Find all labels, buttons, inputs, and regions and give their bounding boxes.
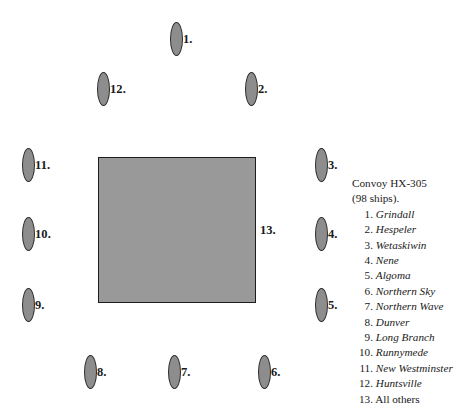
legend-item: 13. All others: [352, 392, 464, 407]
legend-item: 9. Long Branch: [352, 330, 464, 345]
escort-marker-10: 10.: [22, 217, 35, 251]
escort-marker-label: 3.: [328, 159, 338, 172]
legend-item-name: Dunver: [376, 316, 410, 328]
escort-marker-label: 2.: [258, 83, 268, 96]
escort-marker-label: 7.: [181, 366, 191, 379]
legend-list: 1. Grindall2. Hespeler3. Wetaskiwin4. Ne…: [352, 207, 464, 407]
escort-marker-1: 1.: [170, 22, 183, 56]
legend-item-number: 7.: [359, 299, 373, 314]
legend-item-number: 8.: [359, 315, 373, 330]
legend-item-number: 13.: [359, 392, 373, 407]
legend-item-number: 11.: [359, 361, 373, 376]
escort-marker-12: 12.: [97, 72, 110, 106]
ship-ellipse-icon: [315, 288, 328, 322]
legend-item-number: 12.: [359, 376, 373, 391]
legend-item-name: Nene: [376, 254, 399, 266]
legend-item-name: Grindall: [376, 208, 415, 220]
escort-marker-4: 4.: [315, 217, 328, 251]
legend-item-number: 9.: [359, 330, 373, 345]
ship-ellipse-icon: [84, 355, 97, 389]
legend-item-number: 4.: [359, 253, 373, 268]
escort-marker-3: 3.: [315, 148, 328, 182]
escort-marker-label: 4.: [328, 228, 338, 241]
ship-ellipse-icon: [97, 72, 110, 106]
legend-item-number: 6.: [359, 284, 373, 299]
legend-item: 1. Grindall: [352, 207, 464, 222]
legend: Convoy HX-305 (98 ships). 1. Grindall2. …: [352, 176, 464, 407]
legend-item-number: 1.: [359, 207, 373, 222]
legend-item-name: Runnymede: [376, 346, 428, 358]
legend-item-name: Algoma: [376, 269, 411, 281]
convoy-block-label: 13.: [260, 224, 276, 237]
escort-marker-7: 7.: [168, 355, 181, 389]
ship-ellipse-icon: [315, 148, 328, 182]
ship-ellipse-icon: [170, 22, 183, 56]
ship-ellipse-icon: [22, 288, 35, 322]
legend-item: 6. Northern Sky: [352, 284, 464, 299]
legend-item-name: Wetaskiwin: [376, 239, 427, 251]
escort-marker-label: 10.: [35, 228, 51, 241]
ship-ellipse-icon: [168, 355, 181, 389]
legend-item: 8. Dunver: [352, 315, 464, 330]
legend-item-name: Long Branch: [376, 331, 435, 343]
legend-item: 3. Wetaskiwin: [352, 238, 464, 253]
legend-item: 7. Northern Wave: [352, 299, 464, 314]
legend-item-name: Northern Wave: [376, 300, 444, 312]
escort-marker-8: 8.: [84, 355, 97, 389]
escort-marker-label: 5.: [328, 299, 338, 312]
legend-item: 12. Huntsville: [352, 376, 464, 391]
legend-title: Convoy HX-305: [352, 176, 464, 191]
legend-item-name: Huntsville: [376, 377, 422, 389]
escort-marker-label: 11.: [35, 159, 50, 172]
legend-item: 11. New Westminster: [352, 361, 464, 376]
escort-marker-label: 1.: [183, 33, 193, 46]
escort-marker-label: 8.: [97, 366, 107, 379]
legend-item-name: New Westminster: [376, 362, 453, 374]
escort-marker-2: 2.: [245, 72, 258, 106]
ship-ellipse-icon: [22, 217, 35, 251]
legend-item-name: Northern Sky: [376, 285, 435, 297]
legend-item-number: 10.: [359, 345, 373, 360]
legend-item-number: 5.: [359, 268, 373, 283]
escort-marker-11: 11.: [22, 148, 35, 182]
ship-ellipse-icon: [258, 355, 271, 389]
ship-ellipse-icon: [245, 72, 258, 106]
escort-marker-label: 12.: [110, 83, 126, 96]
legend-item: 10. Runnymede: [352, 345, 464, 360]
escort-marker-9: 9.: [22, 288, 35, 322]
legend-item-number: 3.: [359, 238, 373, 253]
escort-marker-6: 6.: [258, 355, 271, 389]
legend-item: 2. Hespeler: [352, 222, 464, 237]
convoy-block: [98, 157, 256, 303]
ship-ellipse-icon: [22, 148, 35, 182]
escort-marker-label: 6.: [271, 366, 281, 379]
legend-item-name: All others: [375, 393, 419, 405]
legend-item: 5. Algoma: [352, 268, 464, 283]
legend-item-name: Hespeler: [376, 223, 416, 235]
escort-marker-5: 5.: [315, 288, 328, 322]
legend-item-number: 2.: [359, 222, 373, 237]
legend-item: 4. Nene: [352, 253, 464, 268]
convoy-formation-diagram: 13. 1.12.2.11.3.10.4.9.5.8.7.6. Convoy H…: [0, 0, 465, 417]
legend-subtitle: (98 ships).: [352, 191, 464, 206]
escort-marker-label: 9.: [35, 299, 45, 312]
ship-ellipse-icon: [315, 217, 328, 251]
